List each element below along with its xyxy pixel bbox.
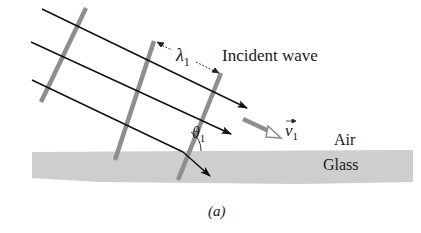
- lambda-subscript: 1: [184, 55, 190, 69]
- velocity-label: v1: [285, 121, 298, 142]
- refraction-diagram: λ1 Incident wave θ1 v1 Air Glass (a): [0, 0, 421, 233]
- ray-bottom: [32, 80, 183, 152]
- ray-middle: [31, 42, 231, 134]
- air-label: Air: [334, 131, 355, 149]
- wavelength-label: λ1: [176, 45, 190, 70]
- theta-symbol: θ: [192, 124, 200, 141]
- velocity-arrow: [243, 119, 281, 138]
- diagram-canvas: [0, 0, 421, 233]
- rays: [31, 9, 247, 176]
- glass-label: Glass: [323, 156, 359, 174]
- incident-wave-label: Incident wave: [222, 46, 318, 66]
- v-subscript: 1: [293, 130, 299, 142]
- theta-subscript: 1: [200, 132, 206, 144]
- lambda-symbol: λ: [176, 45, 184, 65]
- angle-label: θ1: [192, 124, 205, 144]
- wavefront-2: [115, 41, 154, 160]
- ray-top: [42, 9, 247, 108]
- figure-caption: (a): [208, 203, 226, 220]
- v-symbol: v: [285, 121, 293, 140]
